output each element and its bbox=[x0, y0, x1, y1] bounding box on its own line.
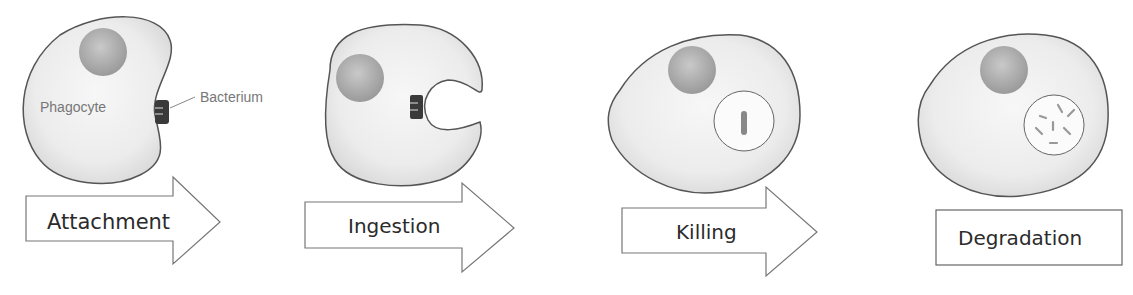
stage-attachment: Phagocyte Bacterium Attachment bbox=[23, 17, 263, 264]
stage-label: Degradation bbox=[958, 226, 1082, 250]
phagocyte-label: Phagocyte bbox=[40, 99, 106, 115]
nucleus bbox=[336, 54, 384, 102]
bacterium-label: Bacterium bbox=[200, 89, 263, 105]
bacterium-icon bbox=[741, 111, 747, 135]
bacterium-icon bbox=[410, 95, 423, 119]
stage-ingestion: Ingestion bbox=[305, 25, 514, 272]
stage-degradation: Degradation bbox=[918, 34, 1122, 265]
nucleus bbox=[668, 46, 716, 94]
phagocyte-cell bbox=[326, 25, 483, 186]
stage-label: Killing bbox=[676, 220, 737, 244]
phagocytosis-diagram: Phagocyte Bacterium Attachment Ingestion… bbox=[0, 0, 1133, 295]
stage-killing: Killing bbox=[608, 35, 817, 276]
bacterium-icon bbox=[155, 100, 169, 124]
bacterium-pointer bbox=[170, 97, 195, 108]
nucleus bbox=[980, 46, 1028, 94]
nucleus bbox=[79, 28, 127, 76]
stage-label: Ingestion bbox=[348, 214, 440, 238]
stage-label: Attachment bbox=[47, 210, 170, 234]
